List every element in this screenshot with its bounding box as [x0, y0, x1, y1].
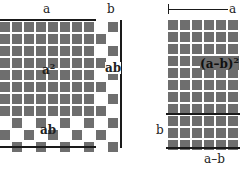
left-top-border — [0, 19, 96, 21]
grid-cell — [0, 118, 10, 128]
grid-cell — [180, 68, 190, 78]
grid-cell — [216, 92, 226, 102]
grid-cell — [204, 44, 214, 54]
grid-cell — [216, 32, 226, 42]
grid-cell — [168, 20, 178, 30]
grid-cell — [48, 46, 58, 56]
right-grid — [168, 20, 238, 150]
grid-cell — [180, 92, 190, 102]
grid-cell — [108, 94, 118, 104]
grid-cell — [36, 82, 46, 92]
grid-cell — [192, 116, 202, 126]
grid-cell — [60, 94, 70, 104]
grid-cell — [168, 68, 178, 78]
grid-cell — [0, 58, 10, 68]
grid-cell — [96, 94, 106, 104]
left-figure: a b a2 ab ab — [0, 0, 125, 170]
grid-cell — [84, 34, 94, 44]
grid-cell — [36, 34, 46, 44]
grid-cell — [24, 22, 34, 32]
grid-cell — [60, 130, 70, 140]
grid-cell — [84, 130, 94, 140]
right-left-label-b: b — [156, 124, 164, 136]
grid-cell — [72, 94, 82, 104]
grid-cell — [108, 46, 118, 56]
grid-cell — [72, 118, 82, 128]
grid-cell — [0, 22, 10, 32]
grid-cell — [108, 22, 118, 32]
left-top-label-a: a — [43, 3, 50, 15]
grid-cell — [12, 130, 22, 140]
grid-cell — [0, 82, 10, 92]
grid-cell — [84, 82, 94, 92]
grid-cell — [24, 46, 34, 56]
grid-cell — [48, 22, 58, 32]
grid-cell — [192, 92, 202, 102]
grid-cell — [216, 44, 226, 54]
grid-cell — [84, 118, 94, 128]
grid-cell — [192, 128, 202, 138]
grid-cell — [108, 34, 118, 44]
grid-cell — [60, 70, 70, 80]
right-top-label-a: a — [229, 3, 236, 15]
grid-cell — [108, 142, 118, 152]
grid-cell — [204, 80, 214, 90]
grid-cell — [168, 44, 178, 54]
grid-cell — [60, 82, 70, 92]
grid-cell — [96, 106, 106, 116]
grid-cell — [192, 32, 202, 42]
grid-cell — [60, 34, 70, 44]
right-strip-divider — [166, 113, 240, 115]
grid-cell — [96, 118, 106, 128]
grid-cell — [72, 34, 82, 44]
grid-cell — [192, 44, 202, 54]
grid-cell — [204, 116, 214, 126]
grid-cell — [72, 106, 82, 116]
grid-cell — [228, 128, 238, 138]
grid-cell — [228, 20, 238, 30]
grid-cell — [12, 58, 22, 68]
grid-cell — [72, 82, 82, 92]
grid-cell — [192, 80, 202, 90]
grid-cell — [72, 70, 82, 80]
grid-cell — [228, 32, 238, 42]
grid-cell — [36, 94, 46, 104]
grid-cell — [168, 116, 178, 126]
grid-cell — [12, 34, 22, 44]
right-area-label: (a–b)2 — [200, 56, 239, 70]
grid-cell — [72, 130, 82, 140]
grid-cell — [228, 80, 238, 90]
grid-cell — [180, 80, 190, 90]
grid-cell — [12, 82, 22, 92]
grid-cell — [96, 82, 106, 92]
grid-cell — [228, 44, 238, 54]
grid-cell — [228, 116, 238, 126]
grid-cell — [84, 46, 94, 56]
grid-cell — [0, 106, 10, 116]
grid-cell — [204, 92, 214, 102]
right-bottom-border — [166, 147, 240, 149]
grid-cell — [180, 116, 190, 126]
grid-cell — [84, 106, 94, 116]
left-bottom-border — [0, 146, 96, 148]
grid-cell — [48, 106, 58, 116]
grid-cell — [72, 22, 82, 32]
grid-cell — [84, 94, 94, 104]
grid-cell — [180, 128, 190, 138]
grid-cell — [12, 46, 22, 56]
grid-cell — [48, 94, 58, 104]
grid-cell — [60, 106, 70, 116]
grid-cell — [204, 128, 214, 138]
grid-cell — [72, 46, 82, 56]
grid-cell — [24, 70, 34, 80]
grid-cell — [108, 130, 118, 140]
grid-cell — [216, 116, 226, 126]
left-area-ab-bottom: ab — [40, 124, 56, 136]
grid-cell — [168, 80, 178, 90]
grid-cell — [204, 20, 214, 30]
left-area-ab-right: ab — [105, 62, 121, 74]
grid-cell — [12, 94, 22, 104]
grid-cell — [204, 32, 214, 42]
left-grid — [0, 22, 118, 152]
grid-cell — [168, 128, 178, 138]
